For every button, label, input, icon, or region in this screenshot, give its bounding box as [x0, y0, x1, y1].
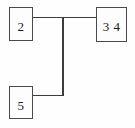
edge-junction-to-node5 — [33, 18, 63, 96]
node-label-2: 2 — [18, 20, 25, 33]
node-box-2[interactable]: 2 — [9, 7, 33, 41]
node-box-34[interactable]: 3 4 — [96, 7, 127, 42]
node-label-5: 5 — [18, 99, 25, 112]
diagram-canvas: 2 3 4 5 — [0, 0, 135, 128]
node-label-34: 3 4 — [103, 20, 121, 33]
node-box-5[interactable]: 5 — [9, 86, 33, 119]
